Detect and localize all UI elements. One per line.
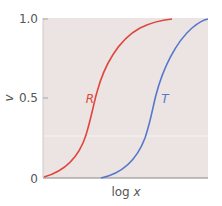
curve-label-R: R (86, 92, 94, 106)
ytick-label-1: 1.0 (19, 12, 38, 26)
ytick-label-0: 0 (30, 172, 38, 186)
x-axis-label-prefix: log (111, 185, 133, 199)
y-axis-label: v (2, 94, 16, 102)
x-axis-label: log x (111, 185, 141, 199)
x-axis-label-var: x (133, 185, 142, 199)
plot-area (43, 18, 208, 178)
binding-curve-chart: 1.0 0.5 0 v log x R T (0, 0, 222, 206)
ytick-label-05: 0.5 (19, 91, 38, 105)
